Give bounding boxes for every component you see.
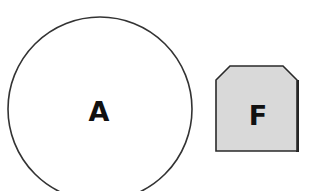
node-f: F [216,66,299,152]
diagram-canvas: A F [0,0,321,191]
node-f-label: F [249,100,267,131]
node-a: A [8,17,192,191]
node-a-label: A [89,96,110,127]
